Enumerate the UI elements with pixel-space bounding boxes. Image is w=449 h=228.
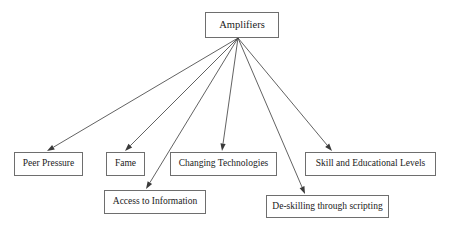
node-amplifiers-label: Amplifiers: [213, 20, 271, 31]
arrowhead-peer-pressure: [47, 145, 55, 151]
edge-line-changing-technologies: [223, 38, 238, 144]
node-de-skilling-through-scripting[interactable]: De-skilling through scripting: [266, 195, 389, 218]
node-changing-technologies-label: Changing Technologies: [173, 159, 275, 169]
node-fame[interactable]: Fame: [106, 152, 145, 176]
arrowhead-changing-technologies: [220, 143, 225, 151]
concept-map-diagram: Amplifiers Peer Pressure Fame Changing T…: [0, 0, 449, 228]
arrowhead-de-skilling-through-scripting: [300, 186, 305, 194]
node-access-to-information-label: Access to Information: [107, 197, 203, 207]
node-access-to-information[interactable]: Access to Information: [104, 190, 206, 214]
node-fame-label: Fame: [109, 159, 142, 169]
node-amplifiers[interactable]: Amplifiers: [205, 12, 279, 38]
node-de-skilling-through-scripting-label: De-skilling through scripting: [266, 202, 388, 212]
node-peer-pressure-label: Peer Pressure: [17, 159, 80, 169]
arrowhead-access-to-information: [146, 181, 152, 189]
node-peer-pressure[interactable]: Peer Pressure: [14, 152, 83, 176]
node-skill-and-educational-levels[interactable]: Skill and Educational Levels: [305, 152, 436, 176]
node-changing-technologies[interactable]: Changing Technologies: [170, 152, 277, 176]
edge-line-skill-and-educational-levels: [238, 38, 327, 145]
arrowhead-skill-and-educational-levels: [325, 144, 332, 151]
node-skill-and-educational-levels-label: Skill and Educational Levels: [310, 159, 432, 169]
